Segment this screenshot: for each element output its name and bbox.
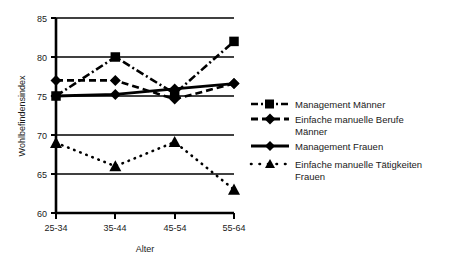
series-einfache-manuelle-berufe-maenner <box>51 75 240 105</box>
square-icon <box>229 37 239 47</box>
triangle-icon <box>109 160 121 171</box>
x-tick-label-45-54: 45-54 <box>163 223 186 233</box>
legend: Management Männer Einfache manuelle Beru… <box>251 99 422 182</box>
line-chart-svg: 85 80 75 70 65 60 25-34 35-44 45-54 55-6… <box>0 0 455 259</box>
legend-label-einfache-manuelle-berufe-maenner: Einfache manuelle Berufe <box>295 114 404 125</box>
diamond-icon <box>110 89 121 100</box>
diamond-icon <box>265 141 275 151</box>
y-tick-label-75: 75 <box>37 92 47 102</box>
square-icon <box>170 89 180 99</box>
y-tick-label-60: 60 <box>37 209 47 219</box>
legend-label-einfache-manuelle-taetigkeiten-frauen-line2: Frauen <box>295 171 325 182</box>
legend-item-management-maenner[interactable]: Management Männer <box>251 99 385 110</box>
diamond-icon <box>51 75 62 86</box>
chart-figure: 85 80 75 70 65 60 25-34 35-44 45-54 55-6… <box>0 0 455 259</box>
legend-item-management-frauen[interactable]: Management Frauen <box>251 141 383 152</box>
x-tick-label-55-64: 55-64 <box>222 223 245 233</box>
square-icon <box>51 91 61 101</box>
series-line-einfache-manuelle-taetigkeiten-frauen <box>56 142 234 190</box>
legend-item-einfache-manuelle-berufe-maenner[interactable]: Einfache manuelle Berufe Männer <box>251 114 404 137</box>
triangle-icon <box>228 184 240 195</box>
legend-item-einfache-manuelle-taetigkeiten-frauen[interactable]: Einfache manuelle Tätigkeiten Frauen <box>251 159 422 182</box>
square-icon <box>111 52 121 62</box>
series-line-management-maenner <box>56 41 234 96</box>
legend-label-management-maenner: Management Männer <box>295 99 385 110</box>
x-tick-label-25-34: 25-34 <box>44 223 67 233</box>
x-axis-title: Alter <box>136 244 155 254</box>
legend-label-management-frauen: Management Frauen <box>295 141 383 152</box>
series-einfache-manuelle-taetigkeiten-frauen <box>50 136 240 195</box>
x-tick-label-35-44: 35-44 <box>103 223 126 233</box>
y-tick-label-85: 85 <box>37 14 47 24</box>
axis-lines <box>56 18 234 213</box>
y-axis-title: Wohlbefindensindex <box>17 75 27 156</box>
y-tick-label-80: 80 <box>37 53 47 63</box>
legend-label-einfache-manuelle-berufe-maenner-line2: Männer <box>295 126 327 137</box>
diamond-icon <box>229 78 240 89</box>
diamond-icon <box>265 114 276 125</box>
y-tick-label-65: 65 <box>37 170 47 180</box>
legend-label-einfache-manuelle-taetigkeiten-frauen: Einfache manuelle Tätigkeiten <box>295 159 422 170</box>
series-markers-einfache-manuelle-taetigkeiten-frauen <box>50 136 240 195</box>
triangle-icon <box>50 137 62 148</box>
diamond-icon <box>110 75 121 86</box>
y-tick-label-70: 70 <box>37 131 47 141</box>
triangle-icon <box>265 159 275 168</box>
square-icon <box>265 100 274 109</box>
triangle-icon <box>169 136 181 147</box>
